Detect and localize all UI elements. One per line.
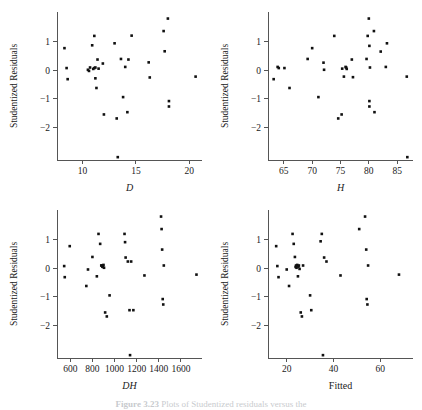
data-point bbox=[94, 77, 97, 80]
panel-d: 10152010−1−2Studentized ResidualsD bbox=[0, 0, 211, 200]
y-tick-label: 1 bbox=[45, 235, 50, 245]
data-point bbox=[168, 105, 171, 108]
data-point bbox=[167, 17, 170, 20]
data-point bbox=[320, 233, 323, 236]
x-tick-label: 40 bbox=[329, 364, 339, 374]
data-point bbox=[398, 273, 401, 276]
data-point bbox=[345, 68, 348, 71]
y-tick-label: 1 bbox=[256, 37, 261, 47]
data-point bbox=[162, 303, 165, 306]
data-point bbox=[91, 44, 94, 47]
x-tick-label: 75 bbox=[336, 166, 346, 176]
y-axis-title: Studentized Residuals bbox=[220, 44, 230, 128]
data-point bbox=[163, 50, 166, 53]
panel-fitted-plot: 20406010−1−2Studentized ResidualsFitted bbox=[211, 198, 422, 398]
data-point bbox=[358, 228, 361, 231]
y-axis-title: Studentized Residuals bbox=[9, 44, 19, 128]
scatter-points bbox=[63, 215, 198, 356]
panel-h: 657075808510−1−2Studentized ResidualsH bbox=[211, 0, 422, 200]
data-point bbox=[283, 67, 286, 70]
y-tick-label: 0 bbox=[45, 264, 50, 274]
data-point bbox=[143, 274, 146, 277]
data-point bbox=[302, 264, 305, 267]
data-point bbox=[102, 62, 105, 65]
data-point bbox=[368, 45, 371, 48]
data-point bbox=[120, 58, 123, 61]
data-point bbox=[337, 117, 340, 120]
data-point bbox=[339, 274, 342, 277]
data-point bbox=[130, 260, 133, 263]
data-point bbox=[351, 58, 354, 61]
data-point bbox=[277, 67, 280, 70]
data-point bbox=[162, 30, 165, 33]
data-point bbox=[323, 68, 326, 71]
data-point bbox=[367, 264, 370, 267]
data-point bbox=[373, 30, 376, 33]
data-point bbox=[88, 70, 91, 73]
data-point bbox=[319, 240, 322, 243]
data-point bbox=[128, 309, 131, 312]
panel-dh: 600800100012001400160010−1−2Studentized … bbox=[0, 198, 211, 398]
data-point bbox=[298, 268, 301, 271]
data-point bbox=[132, 309, 135, 312]
data-point bbox=[294, 256, 297, 259]
panel-dh-plot: 600800100012001400160010−1−2Studentized … bbox=[0, 198, 211, 398]
data-point bbox=[275, 245, 278, 248]
y-tick-label: −2 bbox=[251, 123, 261, 133]
data-point bbox=[325, 260, 328, 263]
data-point bbox=[63, 276, 66, 279]
data-point bbox=[406, 156, 409, 159]
axis-spines bbox=[268, 12, 413, 160]
data-point bbox=[161, 298, 164, 301]
data-point bbox=[85, 285, 88, 288]
data-point bbox=[129, 354, 132, 357]
y-tick-label: 0 bbox=[45, 66, 50, 76]
data-point bbox=[160, 215, 163, 218]
data-point bbox=[373, 111, 376, 114]
data-point bbox=[103, 113, 106, 116]
x-tick-label: 20 bbox=[184, 166, 194, 176]
data-point bbox=[369, 66, 372, 69]
data-point bbox=[94, 66, 97, 69]
data-point bbox=[368, 100, 371, 103]
data-point bbox=[127, 260, 130, 263]
data-point bbox=[108, 294, 111, 297]
x-tick-label: 1600 bbox=[171, 364, 190, 374]
data-point bbox=[288, 285, 291, 288]
data-point bbox=[352, 76, 355, 79]
caption-text: Plots of Studentized residuals versus th… bbox=[161, 399, 306, 409]
data-point bbox=[292, 243, 295, 246]
scatter-points bbox=[63, 17, 197, 158]
data-point bbox=[366, 303, 369, 306]
data-point bbox=[124, 256, 127, 259]
data-point bbox=[405, 75, 408, 78]
panel-fitted: 20406010−1−2Studentized ResidualsFitted bbox=[211, 198, 422, 398]
x-tick-label: 15 bbox=[131, 166, 141, 176]
data-point bbox=[113, 42, 116, 45]
x-tick-label: 10 bbox=[78, 166, 88, 176]
data-point bbox=[89, 66, 92, 69]
data-point bbox=[161, 248, 164, 251]
y-axis-title: Studentized Residuals bbox=[220, 242, 230, 326]
data-point bbox=[385, 66, 388, 69]
y-tick-label: 0 bbox=[256, 66, 261, 76]
y-tick-label: −2 bbox=[251, 321, 261, 331]
y-axis-title: Studentized Residuals bbox=[9, 242, 19, 326]
data-point bbox=[301, 315, 304, 318]
axis-spines bbox=[57, 210, 202, 358]
data-point bbox=[148, 76, 151, 79]
data-point bbox=[340, 113, 343, 116]
x-axis-title: H bbox=[336, 182, 345, 193]
x-axis-title: DH bbox=[121, 380, 137, 391]
x-tick-label: 1400 bbox=[149, 364, 168, 374]
scatter-points bbox=[272, 17, 408, 158]
x-tick-label: 70 bbox=[307, 166, 317, 176]
data-point bbox=[276, 265, 279, 268]
data-point bbox=[311, 47, 314, 50]
data-point bbox=[365, 298, 368, 301]
data-point bbox=[95, 87, 98, 90]
data-point bbox=[103, 266, 106, 269]
y-tick-label: −2 bbox=[40, 321, 50, 331]
x-tick-label: 20 bbox=[282, 364, 292, 374]
y-tick-label: 1 bbox=[45, 37, 50, 47]
